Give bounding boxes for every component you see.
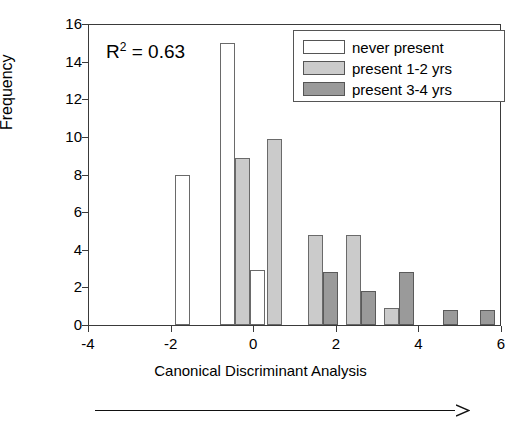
x-tick--2 — [171, 326, 172, 332]
legend-label: present 1-2 yrs — [352, 61, 452, 76]
legend-item-never: never present — [303, 37, 504, 57]
y-tick-14 — [82, 62, 88, 63]
bar — [443, 310, 458, 325]
x-axis-line — [88, 325, 501, 326]
x-tick-label--2: -2 — [164, 336, 177, 351]
y-tick-2 — [82, 287, 88, 288]
x-tick-6 — [501, 326, 502, 332]
x-tick-label-4: 4 — [414, 336, 422, 351]
bar — [480, 310, 495, 325]
y-tick-label-12: 12 — [65, 91, 82, 106]
x-tick--4 — [88, 326, 89, 332]
legend-swatch-y34 — [303, 82, 345, 96]
y-axis-tick-labels: 0246810121416 — [52, 24, 82, 326]
bar — [220, 43, 235, 325]
y-tick-label-14: 14 — [65, 54, 82, 69]
x-tick-0 — [253, 326, 254, 332]
bar — [308, 235, 323, 325]
y-tick-8 — [82, 175, 88, 176]
y-tick-4 — [82, 250, 88, 251]
legend: never presentpresent 1-2 yrspresent 3-4 … — [293, 30, 505, 102]
legend-label: present 3-4 yrs — [352, 82, 452, 97]
bar — [384, 308, 399, 325]
x-axis-tick-labels: -4-20246 — [88, 336, 501, 356]
legend-label: never present — [352, 40, 444, 55]
direction-arrow — [95, 404, 470, 418]
y-axis-title: Frequency — [0, 54, 16, 130]
bar — [399, 272, 414, 325]
y-tick-6 — [82, 212, 88, 213]
legend-swatch-never — [303, 40, 345, 54]
y-tick-label-16: 16 — [65, 16, 82, 31]
arrow-head-icon — [456, 404, 470, 417]
chart-figure: Frequency 0246810121416 -4-20246 Canonic… — [0, 0, 521, 438]
r-squared-letter: R — [106, 41, 120, 62]
x-tick-label-0: 0 — [249, 336, 257, 351]
y-tick-label-4: 4 — [74, 242, 82, 257]
x-tick-4 — [418, 326, 419, 332]
bar — [346, 235, 361, 325]
x-tick-label-2: 2 — [332, 336, 340, 351]
legend-item-y12: present 1-2 yrs — [303, 58, 504, 78]
y-tick-label-10: 10 — [65, 129, 82, 144]
bar — [323, 272, 338, 325]
arrow-shaft — [95, 410, 455, 411]
bar — [175, 175, 190, 326]
y-tick-10 — [82, 137, 88, 138]
bar — [361, 291, 376, 325]
y-tick-label-2: 2 — [74, 279, 82, 294]
r-squared-annotation: R2 = 0.63 — [106, 40, 185, 63]
y-tick-label-0: 0 — [74, 317, 82, 332]
bar — [235, 158, 250, 325]
bar — [250, 270, 265, 325]
y-tick-16 — [82, 24, 88, 25]
legend-item-y34: present 3-4 yrs — [303, 79, 504, 99]
bar — [267, 139, 282, 325]
x-tick-label-6: 6 — [497, 336, 505, 351]
y-tick-label-8: 8 — [74, 167, 82, 182]
r-squared-value: = 0.63 — [126, 41, 185, 62]
x-tick-label--4: -4 — [81, 336, 94, 351]
y-tick-label-6: 6 — [74, 204, 82, 219]
x-tick-2 — [336, 326, 337, 332]
legend-swatch-y12 — [303, 61, 345, 75]
x-axis-title: Canonical Discriminant Analysis — [0, 362, 521, 379]
y-tick-12 — [82, 99, 88, 100]
